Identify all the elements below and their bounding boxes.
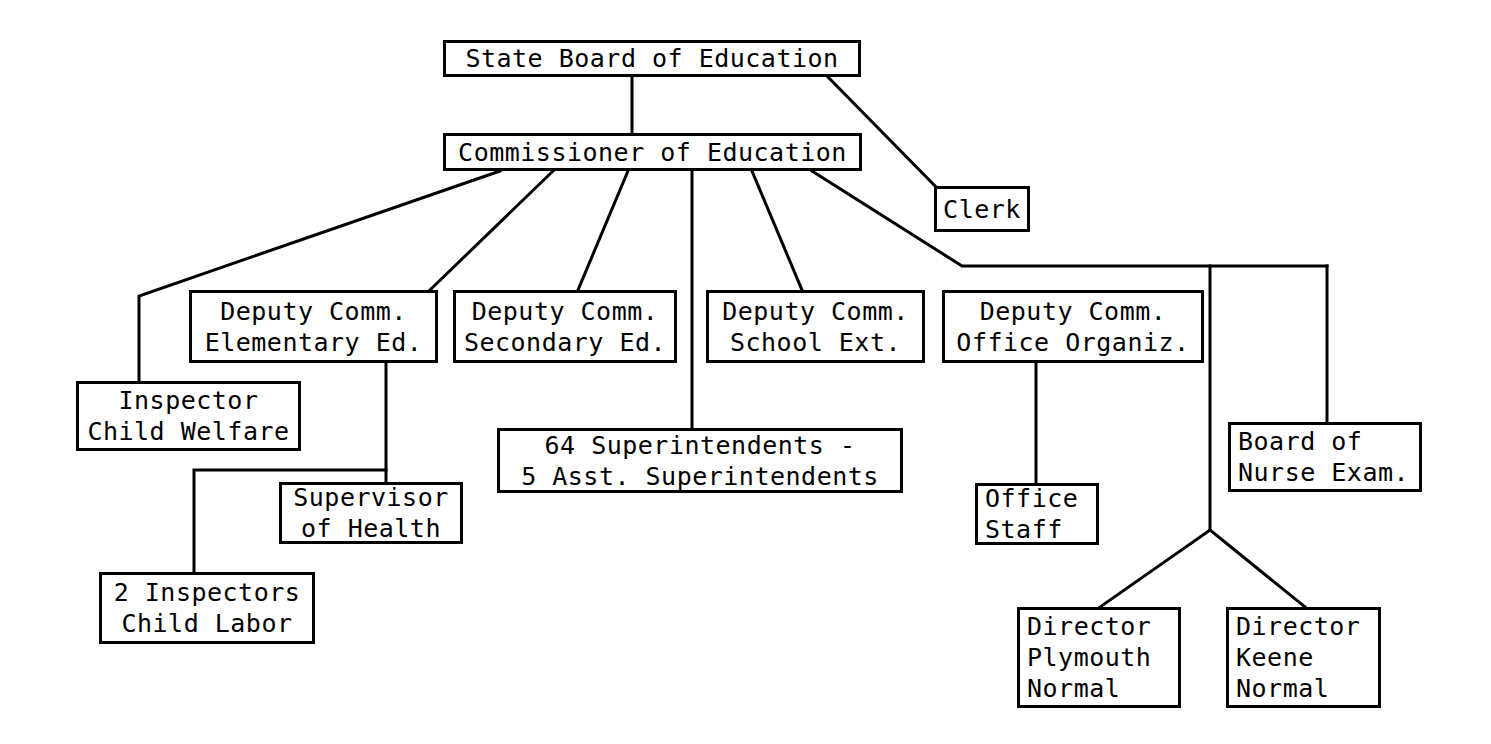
deputy-comm-secondary-ed-line-1: Deputy Comm.: [460, 296, 670, 327]
superintendents-box-line-1: 64 Superintendents -: [504, 430, 896, 461]
inspectors-child-labor-line-2: Child Labor: [106, 608, 308, 639]
commissioner-to-deputy-office-organiz: [812, 171, 1327, 266]
deputy-comm-elementary-ed[interactable]: Deputy Comm.Elementary Ed.: [189, 290, 438, 363]
inspectors-child-labor-line-1: 2 Inspectors: [106, 577, 308, 608]
director-plymouth-normal-line-3: Normal: [1027, 673, 1178, 704]
superintendents-box[interactable]: 64 Superintendents -5 Asst. Superintende…: [497, 428, 903, 493]
office-staff-line-2: Staff: [985, 514, 1096, 545]
office-staff-line-1: Office: [985, 483, 1096, 514]
superintendents-box-line-2: 5 Asst. Superintendents: [504, 461, 896, 492]
state-board-of-education-line-1: State Board of Education: [450, 43, 854, 74]
director-keene-normal-line-3: Normal: [1236, 673, 1378, 704]
org-chart: State Board of EducationCommissioner of …: [0, 0, 1491, 744]
deputy-comm-school-ext-line-2: School Ext.: [713, 327, 918, 358]
state-board-of-education[interactable]: State Board of Education: [443, 40, 861, 77]
supervisor-of-health-line-2: of Health: [286, 513, 456, 544]
office-staff[interactable]: OfficeStaff: [975, 483, 1099, 545]
deputy-comm-elementary-ed-line-2: Elementary Ed.: [196, 327, 431, 358]
deputy-comm-school-ext-line-1: Deputy Comm.: [713, 296, 918, 327]
deputy-comm-office-organiz[interactable]: Deputy Comm.Office Organiz.: [942, 290, 1204, 363]
junction-to-director-plymouth: [1100, 530, 1210, 607]
director-keene-normal[interactable]: DirectorKeeneNormal: [1226, 607, 1381, 708]
clerk-line-1: Clerk: [941, 194, 1023, 225]
board-of-nurse-exam-line-1: Board of: [1238, 426, 1419, 457]
commissioner-to-deputy-school-ext: [752, 171, 802, 290]
commissioner-of-education-line-1: Commissioner of Education: [450, 137, 855, 168]
deputy-comm-school-ext[interactable]: Deputy Comm.School Ext.: [706, 290, 925, 363]
inspector-child-welfare-line-1: Inspector: [83, 385, 294, 416]
director-keene-normal-line-2: Keene: [1236, 642, 1378, 673]
commissioner-of-education[interactable]: Commissioner of Education: [443, 133, 862, 171]
inspector-child-welfare[interactable]: InspectorChild Welfare: [76, 381, 301, 451]
deputy-comm-office-organiz-line-2: Office Organiz.: [949, 327, 1197, 358]
director-plymouth-normal[interactable]: DirectorPlymouthNormal: [1017, 607, 1181, 708]
supervisor-of-health[interactable]: Supervisorof Health: [279, 482, 463, 544]
deputy-comm-secondary-ed[interactable]: Deputy Comm.Secondary Ed.: [453, 290, 677, 363]
deputy-comm-office-organiz-line-1: Deputy Comm.: [949, 296, 1197, 327]
board-of-nurse-exam-line-2: Nurse Exam.: [1238, 457, 1419, 488]
board-of-nurse-exam[interactable]: Board ofNurse Exam.: [1228, 422, 1422, 492]
inspector-child-welfare-line-2: Child Welfare: [83, 416, 294, 447]
supervisor-of-health-line-1: Supervisor: [286, 482, 456, 513]
director-keene-normal-line-1: Director: [1236, 611, 1378, 642]
director-plymouth-normal-line-1: Director: [1027, 611, 1178, 642]
inspectors-child-labor[interactable]: 2 InspectorsChild Labor: [99, 572, 315, 644]
clerk[interactable]: Clerk: [934, 186, 1030, 232]
junction-to-director-keene: [1210, 530, 1305, 607]
deputy-comm-elementary-ed-line-1: Deputy Comm.: [196, 296, 431, 327]
director-plymouth-normal-line-2: Plymouth: [1027, 642, 1178, 673]
commissioner-to-deputy-secondary: [578, 171, 628, 290]
deputy-comm-secondary-ed-line-2: Secondary Ed.: [460, 327, 670, 358]
